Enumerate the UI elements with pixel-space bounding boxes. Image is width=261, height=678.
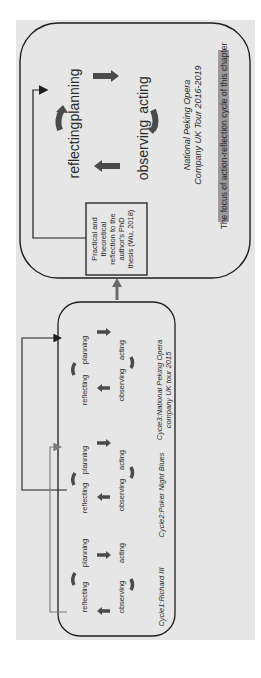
connector-cycle2-to-cycle3 [22, 338, 67, 490]
diagram-label: planning [80, 446, 89, 474]
arrow-icon [73, 573, 75, 585]
diagram-label: reflection to the [108, 213, 117, 264]
arrow-icon [131, 579, 133, 590]
arrow-icon [97, 493, 102, 501]
arrow-icon [112, 278, 122, 287]
diagram-label: observing [117, 369, 126, 402]
diagram-label: acting [117, 450, 126, 470]
diagram-label: reflecting [80, 582, 89, 612]
arrow-icon [73, 363, 75, 375]
main-acting-label: acting [135, 76, 151, 113]
arrow-icon [111, 70, 119, 82]
cycle-3: planning acting observing reflecting Cyc… [73, 328, 173, 440]
arrow-icon [97, 607, 102, 615]
diagram-label: thesis (Wu, 2018) [126, 209, 135, 268]
main-caption-line2: Company UK Tour 2016-2019 [193, 65, 203, 184]
diagram-label: Cycle1:Richard III [157, 567, 166, 626]
diagram-label: reflecting [80, 483, 89, 513]
main-reflecting-label: reflecting [66, 122, 82, 179]
diagram-label: Cycle3:National Peking Opera [155, 340, 164, 440]
arrow-icon [106, 439, 111, 447]
diagram-label: Cycle2:Poker Night Blues [157, 452, 166, 537]
diagram-label: planning [80, 336, 89, 364]
diagram-label: author's PhD [117, 217, 126, 261]
arrow-icon [94, 160, 102, 172]
diagram-label: theoretical [99, 221, 108, 256]
main-planning-label: planning [66, 69, 82, 122]
diagram-label: observing [117, 581, 126, 614]
main-caption-line1: National Peking Opera [182, 80, 192, 171]
cycle-2: planning acting observing reflecting Cyc… [73, 439, 166, 538]
arrow-icon [97, 384, 102, 392]
diagram-label: observing [117, 479, 126, 512]
diagram-label: acting [117, 340, 126, 360]
diagram-label: company UK tour 2015 [164, 351, 173, 429]
diagram-label: Practical and [90, 217, 99, 260]
diagram-label: acting [117, 543, 126, 563]
reflection-text: Practical and theoretical reflection to … [90, 209, 135, 268]
arrow-icon [73, 473, 75, 485]
arrow-icon [131, 357, 133, 368]
diagram-label: reflecting [80, 375, 89, 405]
arrow-icon [131, 467, 133, 478]
cycle-1: planning acting observing reflecting Cyc… [73, 539, 166, 627]
focus-label: The focus of action-reflection cycle of … [219, 43, 229, 230]
diagram-label: planning [80, 539, 89, 567]
main-cycle: planning acting observing reflecting Nat… [56, 43, 229, 230]
arrow-icon [106, 328, 111, 336]
arrow-icon [106, 551, 111, 559]
action-reflection-diagram: planning acting observing reflecting Nat… [0, 0, 261, 678]
arrow-icon [58, 110, 62, 130]
